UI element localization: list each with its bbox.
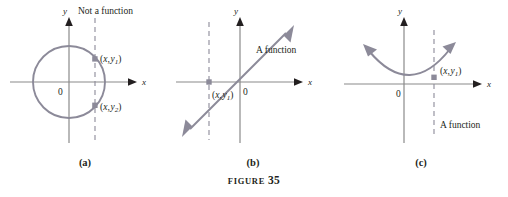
point-label-x-y1: (x, y1): [100, 54, 121, 66]
figure-number-value: 35: [268, 174, 280, 186]
panel-caption-a: (a): [0, 157, 170, 168]
panel-a-circle: x y 0 Not a function (x, y1) (x, y2): [0, 0, 170, 155]
x-axis-label-c: x: [486, 79, 491, 89]
intersection-marker-upper: [92, 56, 97, 61]
origin-label-b: 0: [243, 87, 248, 97]
intersection-marker: [206, 79, 211, 84]
panel-caption-c: (c): [336, 157, 506, 168]
point-label-x-y2: (x, y2): [100, 102, 121, 114]
figure-number: FIGURE 35: [0, 174, 508, 186]
intersection-marker-lower: [92, 103, 97, 108]
panel-c-parabola: x y 0 A function (x, y1): [336, 0, 506, 155]
line-curve: [182, 25, 294, 137]
intersection-marker: [431, 75, 436, 80]
x-axis-panel-a: [10, 78, 137, 86]
origin-label-c: 0: [396, 89, 401, 99]
y-axis-label-c: y: [397, 6, 402, 16]
point-label-x-y1: (x, y1): [212, 90, 233, 102]
y-axis-panel-a: [65, 17, 73, 143]
y-axis-panel-c: [400, 17, 408, 143]
figure-35: x y 0 Not a function (x, y1) (x, y2): [0, 0, 508, 197]
x-axis-label-a: x: [141, 77, 146, 87]
annotation-not-a-function: Not a function: [78, 6, 133, 16]
y-axis-label-b: y: [233, 6, 238, 16]
origin-label-a: 0: [58, 87, 63, 97]
x-axis-panel-c: [344, 80, 482, 88]
panel-b-line: x y 0 A function (x, y1): [168, 0, 338, 155]
panel-caption-b: (b): [168, 157, 338, 168]
annotation-a-function: A function: [440, 120, 481, 130]
annotation-a-function: A function: [256, 45, 297, 55]
figure-number-prefix: FIGURE: [228, 176, 265, 186]
point-label-x-y1: (x, y1): [440, 66, 461, 78]
y-axis-label-a: y: [62, 6, 67, 16]
x-axis-label-b: x: [307, 77, 312, 87]
